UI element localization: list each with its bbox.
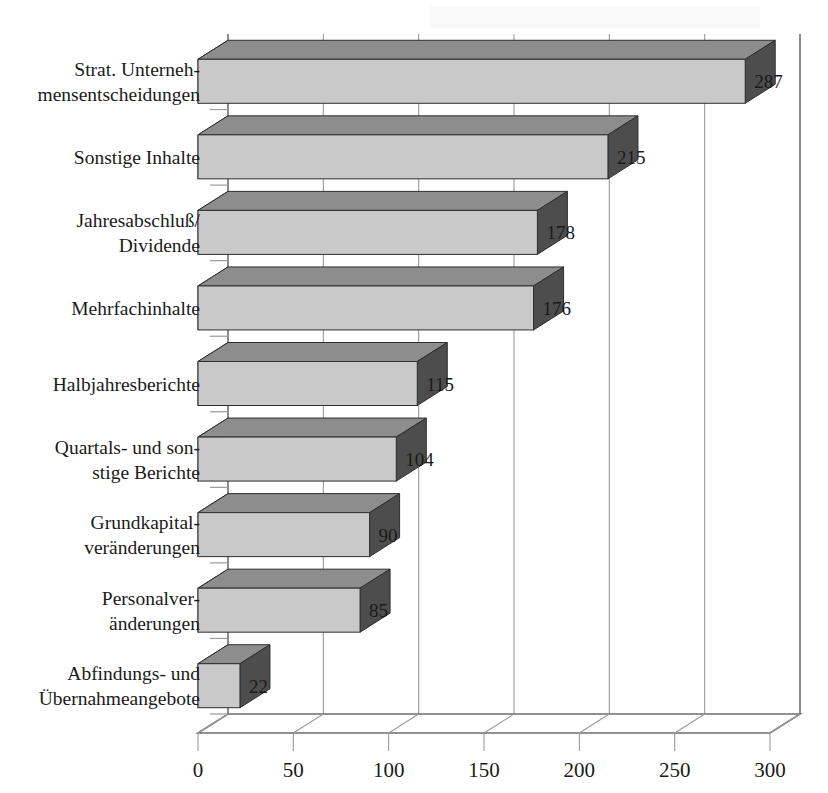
xtick-label-200: 200: [564, 758, 596, 782]
bar-value-label-2: 178: [546, 222, 575, 243]
bar-front-face: [198, 59, 745, 103]
bar-top-face: [198, 343, 447, 362]
bar-front-face: [198, 588, 360, 632]
floor-depth-line-50: [293, 714, 323, 733]
bar-front-face: [198, 286, 534, 330]
category-label-3: Mehrfachinhalte: [71, 298, 200, 319]
bar-top-face: [198, 191, 567, 210]
bar-front-face: [198, 135, 608, 179]
value-axis-labels: 050100150200250300: [193, 758, 786, 782]
bar-value-label-4: 115: [426, 374, 454, 395]
bar-4: 115: [198, 343, 454, 406]
bar-3: 176: [198, 267, 571, 330]
xtick-label-300: 300: [754, 758, 786, 782]
bar-value-label-7: 85: [369, 600, 388, 621]
bar-front-face: [198, 210, 537, 254]
category-label-2: Jahresabschluß/Dividende: [77, 210, 201, 256]
category-label-4: Halbjahresberichte: [53, 374, 200, 395]
floor-depth-line-250: [675, 714, 705, 733]
xtick-label-250: 250: [659, 758, 691, 782]
xtick-label-50: 50: [283, 758, 304, 782]
xtick-label-150: 150: [468, 758, 500, 782]
floor-depth-line-200: [579, 714, 609, 733]
category-label-1: Sonstige Inhalte: [74, 147, 200, 168]
floor-depth-line-300: [770, 714, 800, 733]
bar-1: 215: [198, 116, 645, 179]
bar-chart-figure: 228590104115176178215287Strat. Unterneh-…: [0, 0, 828, 793]
chart-canvas: 228590104115176178215287Strat. Unterneh-…: [0, 0, 828, 793]
category-label-0: Strat. Unterneh-mensentscheidungen: [38, 59, 201, 105]
bar-front-face: [198, 513, 370, 557]
bar-6: 90: [198, 494, 400, 557]
bar-value-label-1: 215: [617, 147, 646, 168]
bar-2: 178: [198, 191, 575, 254]
floor-depth-line-100: [389, 714, 419, 733]
bar-7: 85: [198, 569, 390, 632]
bar-top-face: [198, 116, 638, 135]
category-label-8: Abfindungs- undÜbernahmeangebote: [39, 663, 201, 709]
bar-top-face: [198, 494, 400, 513]
bar-front-face: [198, 437, 396, 481]
category-label-5: Quartals- und son-stige Berichte: [55, 437, 200, 483]
bar-front-face: [198, 664, 240, 708]
bar-top-face: [198, 418, 426, 437]
xtick-label-100: 100: [373, 758, 405, 782]
bar-5: 104: [198, 418, 434, 481]
bar-value-label-5: 104: [405, 449, 434, 470]
bar-8: 22: [198, 645, 270, 708]
bar-top-face: [198, 267, 564, 286]
bar-value-label-6: 90: [379, 525, 398, 546]
bars-layer: 228590104115176178215287: [198, 40, 783, 707]
bar-value-label-3: 176: [543, 298, 572, 319]
floor-depth-line-150: [484, 714, 514, 733]
floor-depth-line-0: [198, 714, 228, 733]
category-label-7: Personalver-änderungen: [102, 588, 200, 634]
bar-top-face: [198, 569, 390, 588]
bar-0: 287: [198, 40, 783, 103]
xtick-label-0: 0: [193, 758, 204, 782]
bar-front-face: [198, 362, 417, 406]
bar-value-label-8: 22: [249, 676, 268, 697]
bar-top-face: [198, 40, 775, 59]
bar-value-label-0: 287: [754, 71, 783, 92]
category-label-6: Grundkapital-veränderungen: [84, 512, 200, 558]
category-axis: Strat. Unterneh-mensentscheidungenSonsti…: [38, 59, 228, 714]
